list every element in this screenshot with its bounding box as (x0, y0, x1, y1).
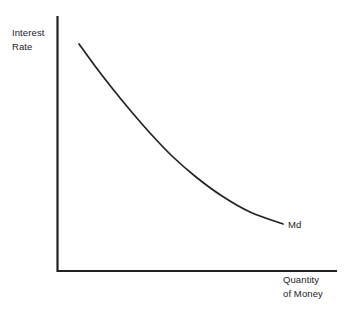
x-axis-label-line-2: of Money (283, 287, 323, 301)
x-axis-label: Quantity of Money (283, 273, 323, 300)
chart-canvas (0, 0, 354, 315)
money-demand-curve (79, 44, 283, 224)
y-axis-label-line-2: Rate (12, 40, 44, 54)
y-axis-label-line-1: Interest (12, 26, 44, 40)
y-axis-label: Interest Rate (12, 26, 44, 53)
x-axis-label-line-1: Quantity (283, 273, 323, 287)
money-demand-figure: Interest Rate Quantity of Money Md (0, 0, 354, 315)
money-demand-curve-label: Md (288, 219, 301, 230)
